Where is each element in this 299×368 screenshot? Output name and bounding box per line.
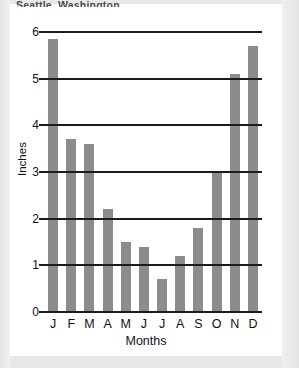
x-tick-label: N <box>230 318 239 331</box>
x-tick-label: D <box>248 318 257 331</box>
bar <box>121 242 131 312</box>
x-tick-label: J <box>50 318 56 331</box>
gridline <box>44 124 262 126</box>
x-tick-label: O <box>212 318 222 331</box>
x-tick-label: A <box>103 318 111 331</box>
chart-figure-card: Seattle, Washington 0123456 JFMAMJJASOND… <box>10 4 282 356</box>
gridline <box>44 31 262 33</box>
gridline <box>44 171 262 173</box>
bar <box>193 228 203 312</box>
y-tick-label: 1 <box>32 259 39 271</box>
chart-title: Seattle, Washington <box>16 0 276 7</box>
y-tick-label: 3 <box>32 166 39 178</box>
y-tick-label: 6 <box>32 26 39 38</box>
page-edge-strip-right <box>282 0 299 368</box>
bar <box>212 172 222 312</box>
x-tick-label: J <box>159 318 165 331</box>
x-axis-baseline <box>44 311 262 313</box>
bar <box>139 247 149 312</box>
x-axis-title: Months <box>10 334 282 348</box>
bar <box>48 39 58 312</box>
gridline <box>44 264 262 266</box>
bar <box>103 209 113 312</box>
bar <box>84 144 94 312</box>
y-axis-title: Inches <box>16 142 28 176</box>
x-tick-label: F <box>67 318 75 331</box>
x-tick-label: J <box>141 318 147 331</box>
plot-area: 0123456 JFMAMJJASOND <box>44 32 262 312</box>
bar <box>248 46 258 312</box>
y-tick-label: 4 <box>32 119 39 131</box>
y-tick-label: 5 <box>32 73 39 85</box>
page-edge-strip-left <box>0 0 10 368</box>
x-tick-label: S <box>194 318 202 331</box>
y-tick-label: 0 <box>32 306 39 318</box>
y-tick-label: 2 <box>32 213 39 225</box>
bar <box>157 279 167 312</box>
x-tick-label: M <box>84 318 94 331</box>
bar <box>66 139 76 312</box>
bar <box>230 74 240 312</box>
x-tick-label: M <box>121 318 131 331</box>
gridline <box>44 78 262 80</box>
x-tick-label: A <box>176 318 184 331</box>
gridline <box>44 218 262 220</box>
